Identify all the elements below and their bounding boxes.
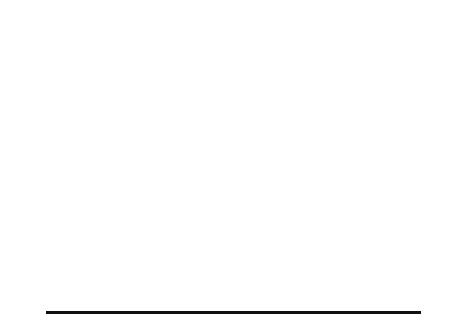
- figure-cluster-expression-profiles: [0, 0, 461, 320]
- bottom-rule: [46, 311, 421, 314]
- panel-grid: [33, 19, 443, 278]
